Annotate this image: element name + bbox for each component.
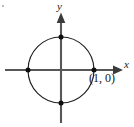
point-bottom [59, 101, 64, 106]
point-coordinate-label: (1, 0) [89, 72, 115, 84]
point-left [26, 68, 31, 73]
y-axis-label: y [57, 1, 62, 12]
unit-circle-figure: y x (1, 0) [0, 0, 134, 127]
figure-canvas [0, 0, 134, 127]
y-axis-arrowhead [57, 13, 66, 24]
x-axis-label: x [124, 59, 129, 70]
point-top [59, 35, 64, 40]
